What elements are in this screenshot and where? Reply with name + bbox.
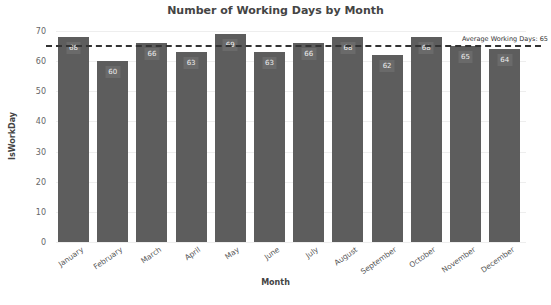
x-tick-label: December — [479, 245, 516, 275]
bar-value-label: 68 — [66, 42, 81, 54]
bar-march[interactable]: 66 — [136, 43, 167, 242]
x-tick-label: April — [183, 245, 202, 262]
bar-october[interactable]: 68 — [411, 37, 442, 242]
bar-september[interactable]: 62 — [372, 55, 403, 242]
bar-february[interactable]: 60 — [97, 61, 128, 242]
average-label: Average Working Days: 65 — [462, 35, 548, 43]
bar-november[interactable]: 65 — [450, 46, 481, 242]
bar-value-label: 66 — [144, 48, 159, 60]
average-line — [46, 45, 541, 47]
bar-value-label: 64 — [497, 54, 512, 66]
plot-area: 01020304050607068January60February66Marc… — [56, 31, 526, 242]
x-tick-label: February — [91, 245, 123, 271]
bar-june[interactable]: 63 — [254, 52, 285, 242]
chart-title: Number of Working Days by Month — [0, 4, 551, 17]
bar-value-label: 63 — [184, 57, 199, 69]
x-tick-label: January — [56, 245, 84, 269]
bar-august[interactable]: 68 — [332, 37, 363, 242]
gridline — [56, 31, 526, 32]
x-tick-label: July — [304, 245, 320, 260]
bar-january[interactable]: 68 — [58, 37, 89, 242]
y-tick-label: 40 — [16, 117, 46, 126]
bar-may[interactable]: 69 — [215, 34, 246, 242]
y-tick-label: 20 — [16, 177, 46, 186]
x-tick-label: August — [332, 245, 359, 267]
gridline — [56, 242, 526, 243]
bar-value-label: 63 — [262, 57, 277, 69]
x-tick-label: June — [262, 245, 281, 262]
y-tick-label: 70 — [16, 27, 46, 36]
y-tick-label: 50 — [16, 87, 46, 96]
bar-value-label: 65 — [458, 51, 473, 63]
bar-value-label: 68 — [340, 42, 355, 54]
bar-value-label: 68 — [419, 42, 434, 54]
bar-value-label: 62 — [380, 60, 395, 72]
bar-value-label: 66 — [301, 48, 316, 60]
y-tick-label: 30 — [16, 147, 46, 156]
bar-value-label: 60 — [105, 66, 120, 78]
y-tick-label: 60 — [16, 57, 46, 66]
x-tick-label: May — [224, 245, 242, 261]
x-tick-label: September — [359, 245, 398, 276]
y-tick-label: 10 — [16, 207, 46, 216]
y-tick-label: 0 — [16, 238, 46, 247]
bar-july[interactable]: 66 — [293, 43, 324, 242]
x-tick-label: October — [408, 245, 438, 270]
bar-december[interactable]: 64 — [489, 49, 520, 242]
x-axis-label: Month — [0, 278, 551, 287]
x-tick-label: November — [440, 245, 477, 275]
x-tick-label: March — [139, 245, 163, 265]
bar-april[interactable]: 63 — [176, 52, 207, 242]
